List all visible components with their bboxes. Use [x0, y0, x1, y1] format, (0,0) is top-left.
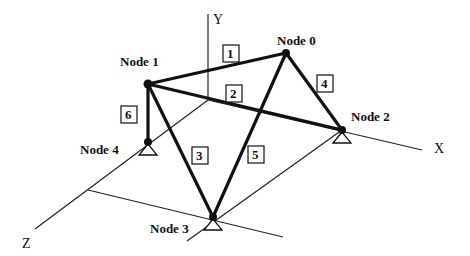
node-1-label: Node 1 [120, 54, 159, 69]
node-3-label: Node 3 [150, 221, 189, 236]
svg-text:6: 6 [125, 107, 132, 122]
node-2-label: Node 2 [351, 109, 390, 124]
member-label-3: 3 [192, 147, 208, 164]
node-2-marker [338, 126, 346, 134]
member-label-6: 6 [121, 106, 137, 123]
member-label-2: 2 [226, 85, 242, 102]
truss-diagram: Y X Z Node 0 Node 1 Node 2 Node 3 Node 4… [0, 0, 470, 256]
y-axis-label: Y [213, 12, 223, 27]
node-3-marker [209, 213, 217, 221]
member-1 [148, 53, 286, 84]
member-label-1: 1 [223, 45, 239, 62]
svg-text:2: 2 [230, 86, 237, 101]
member-5 [213, 53, 286, 217]
svg-text:4: 4 [321, 76, 328, 91]
z-axis-label: Z [22, 236, 31, 251]
member-label-5: 5 [248, 146, 264, 163]
node-1-marker [144, 80, 153, 89]
node-4-marker [144, 138, 152, 146]
members [148, 53, 342, 217]
svg-text:5: 5 [252, 147, 259, 162]
svg-text:3: 3 [196, 148, 203, 163]
svg-text:1: 1 [227, 46, 234, 61]
x-axis-label: X [434, 141, 444, 156]
node-0-label: Node 0 [277, 33, 316, 48]
node-4-label: Node 4 [80, 142, 119, 157]
node-0-marker [282, 49, 290, 57]
member-label-4: 4 [317, 75, 333, 92]
